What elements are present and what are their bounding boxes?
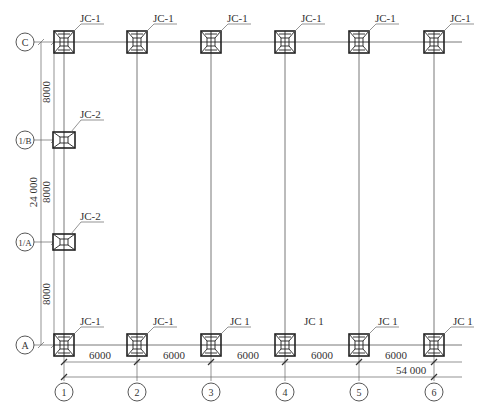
dim-horizontal-4: 6000 [311,349,334,361]
footing-label: JC-1 [450,12,471,24]
footing-jc1 [201,31,221,53]
footing-label: JC 1 [304,315,324,327]
axis-bubble-a: A [21,340,29,351]
footing-jc1 [424,334,444,356]
dim-vertical-2: 8000 [40,181,52,204]
foundation-plan-drawing: 8000 8000 8000 24 000 6000 6000 6000 600… [0,0,493,420]
footing-jc2 [53,132,75,148]
column-axis-bubbles: 1 2 3 4 5 6 [55,383,443,401]
footing-jc2 [53,234,75,250]
footing-jc1 [275,334,295,356]
axis-bubble-2: 2 [135,387,140,398]
footing-label: JC-2 [80,210,101,222]
axis-bubble-1: 1 [62,387,67,398]
footing-jc1 [349,31,369,53]
footing-jc1 [201,334,221,356]
horizontal-dimensions: 6000 6000 6000 6000 6000 54 000 [61,345,462,381]
footing-label: JC-1 [153,12,174,24]
dim-vertical-3: 8000 [40,283,52,306]
footings-row-a: JC-1 JC-1 JC 1 JC 1 JC 1 JC 1 [54,315,474,356]
footing-label: JC 1 [230,315,250,327]
dim-vertical-1: 8000 [40,81,52,104]
footing-label: JC 1 [378,315,398,327]
axis-bubble-3: 3 [209,387,214,398]
footing-label: JC-1 [375,12,396,24]
vertical-dimensions: 8000 8000 8000 24 000 [27,39,60,348]
axis-bubble-c: C [22,37,29,48]
dim-vertical-total: 24 000 [27,176,39,207]
footing-jc1 [275,31,295,53]
dim-horizontal-total: 54 000 [396,364,427,376]
footing-jc1 [127,31,147,53]
footing-jc1 [127,334,147,356]
dim-horizontal-5: 6000 [385,349,408,361]
footing-label: JC-2 [80,108,101,120]
grid-lines [60,42,462,345]
footing-label: JC-1 [80,12,101,24]
footing-jc1 [54,31,74,53]
footing-label: JC-1 [80,315,101,327]
dim-horizontal-1: 6000 [89,349,112,361]
dim-horizontal-3: 6000 [237,349,260,361]
dim-horizontal-2: 6000 [163,349,186,361]
footing-jc1 [424,31,444,53]
footing-jc1 [349,334,369,356]
axis-bubble-5: 5 [357,387,362,398]
footing-label: JC-1 [227,12,248,24]
footing-label: JC-1 [153,315,174,327]
axis-bubble-6: 6 [432,387,437,398]
footing-label: JC-1 [301,12,322,24]
footings-row-c: JC-1 JC-1 JC-1 JC-1 JC-1 JC-1 [54,12,474,53]
footing-jc1 [54,334,74,356]
footing-label: JC 1 [453,315,473,327]
footings-mid: JC-2 JC-2 [53,108,104,250]
axis-bubble-1a: 1/A [18,238,32,248]
axis-bubble-4: 4 [283,387,288,398]
axis-bubble-1b: 1/B [18,136,31,146]
